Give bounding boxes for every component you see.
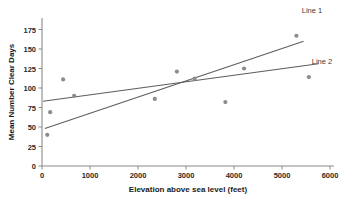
- y-tick-label-100: 100: [23, 84, 36, 93]
- data-point: [45, 133, 49, 137]
- data-point: [242, 66, 246, 70]
- data-point-markers: [45, 34, 311, 137]
- scatter-chart: 0 25 50 75 100 125 150 175 0 1000 2000 3…: [0, 0, 345, 199]
- x-tick-label-0: 0: [40, 171, 44, 180]
- x-tick-label-5000: 5000: [274, 171, 291, 180]
- x-axis-title: Elevation above sea level (feet): [129, 185, 248, 194]
- chart-canvas: 0 25 50 75 100 125 150 175 0 1000 2000 3…: [0, 0, 345, 199]
- series-label-line-1: Line 1: [302, 6, 322, 15]
- data-point: [175, 70, 179, 74]
- x-tick-label-1000: 1000: [82, 171, 99, 180]
- y-tick-label-50: 50: [28, 123, 36, 132]
- x-tick-label-6000: 6000: [322, 171, 339, 180]
- y-tick-label-125: 125: [23, 65, 36, 74]
- data-point: [223, 100, 227, 104]
- y-tick-label-175: 175: [23, 26, 36, 35]
- y-tick-label-75: 75: [28, 104, 36, 113]
- y-tick-label-0: 0: [32, 162, 36, 171]
- series-label-line-2: Line 2: [312, 57, 332, 66]
- trend-line-1: [45, 41, 304, 128]
- trend-line-2: [43, 64, 319, 101]
- y-tick-label-150: 150: [23, 45, 36, 54]
- y-tick-label-25: 25: [28, 143, 36, 152]
- data-point: [72, 94, 76, 98]
- trend-lines: [43, 41, 319, 128]
- data-point: [294, 34, 298, 38]
- x-tick-label-4000: 4000: [226, 171, 243, 180]
- data-point: [307, 75, 311, 79]
- y-axis-title: Mean Number Clear Days: [7, 43, 16, 140]
- data-point: [61, 77, 65, 81]
- x-tick-label-3000: 3000: [178, 171, 195, 180]
- x-tick-label-2000: 2000: [130, 171, 147, 180]
- data-point: [153, 97, 157, 101]
- data-point: [48, 110, 52, 114]
- data-point: [193, 77, 197, 81]
